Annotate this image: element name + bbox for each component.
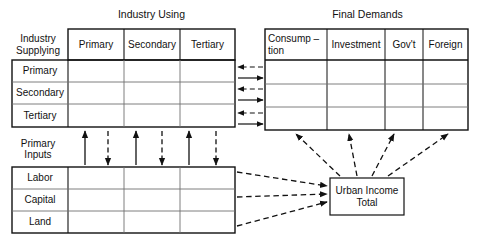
col-header-industry-using-0: Primary xyxy=(68,29,124,60)
col-header-final-demands-2: Gov't xyxy=(385,29,423,60)
row-label-primary-inputs-1: Capital xyxy=(12,189,68,211)
urban-income-total-label: Urban Income Total xyxy=(330,178,404,215)
row-label-primary-inputs-0: Labor xyxy=(12,167,68,189)
title-final-demands: Final Demands xyxy=(300,8,435,22)
col-header-final-demands-0: Consump – tion xyxy=(268,29,326,60)
label-primary-inputs: Primary Inputs xyxy=(8,134,68,164)
flow-land-to-uit xyxy=(237,202,327,226)
col-header-industry-using-2: Tertiary xyxy=(180,29,235,60)
row-label-industry-supplying-2: Tertiary xyxy=(12,104,68,127)
row-label-industry-supplying-1: Secondary xyxy=(11,82,69,104)
interindustry-final-demand-flows xyxy=(238,67,263,124)
flow-uit-to-investment xyxy=(349,134,357,176)
row-label-primary-inputs-2: Land xyxy=(12,211,68,233)
inputs-to-urban-income-flows xyxy=(237,172,327,226)
input-output-diagram: Industry Using Final Demands Industry Su… xyxy=(0,0,478,244)
flow-uit-to-government xyxy=(372,134,394,176)
flow-uit-to-foreign xyxy=(388,134,448,176)
col-header-industry-using-1: Secondary xyxy=(124,29,180,60)
flow-uit-to-consumption xyxy=(296,134,340,176)
col-header-final-demands-3: Foreign xyxy=(423,29,468,60)
title-industry-using: Industry Using xyxy=(68,8,235,22)
primary-inputs-industry-flows xyxy=(85,131,216,165)
urban-income-to-final-demands-flows xyxy=(296,134,448,176)
col-header-final-demands-1: Investment xyxy=(327,29,385,60)
row-label-industry-supplying-0: Primary xyxy=(12,60,68,82)
flow-labor-to-uit xyxy=(237,172,327,186)
flow-capital-to-uit xyxy=(237,194,327,197)
corner-label-industry-supplying: Industry Supplying xyxy=(8,29,68,60)
